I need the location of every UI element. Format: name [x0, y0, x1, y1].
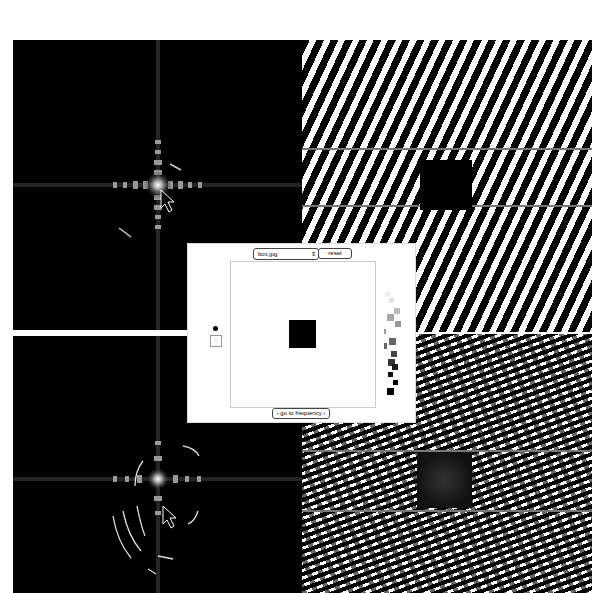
palette-swatch[interactable]: [395, 321, 401, 327]
palette-swatch[interactable]: [385, 292, 390, 297]
brush-dot-icon[interactable]: [213, 326, 218, 331]
palette-swatch[interactable]: [387, 314, 394, 321]
palette-swatch[interactable]: [392, 364, 398, 370]
palette-swatch[interactable]: [387, 388, 394, 395]
box-image: [420, 160, 472, 210]
palette-swatch[interactable]: [391, 351, 397, 357]
lasso-select-icon[interactable]: ◌: [210, 335, 222, 347]
canvas-black-box: [289, 320, 316, 348]
scanline: [302, 510, 592, 512]
image-select-value: box.jpg: [258, 251, 277, 257]
select-arrows-icon: ⇕: [311, 249, 316, 259]
palette-swatch[interactable]: [389, 338, 396, 345]
palette-swatch[interactable]: [384, 329, 386, 334]
image-editor-dialog: box.jpg ⇕ reset ◌ › go to frequency ›: [188, 244, 415, 422]
scanline: [302, 148, 592, 150]
cursor-arrow-icon: [163, 506, 176, 528]
palette-swatch[interactable]: [393, 380, 398, 385]
reset-button[interactable]: reset: [318, 248, 352, 259]
blurred-box-image: [417, 452, 472, 508]
palette-swatch[interactable]: [384, 343, 387, 349]
image-select[interactable]: box.jpg ⇕: [253, 248, 319, 260]
go-to-frequency-button[interactable]: › go to frequency ›: [272, 408, 330, 419]
palette-swatch[interactable]: [394, 308, 400, 314]
drawing-canvas[interactable]: [230, 261, 376, 408]
palette-swatch[interactable]: [389, 298, 394, 303]
palette-swatch[interactable]: [388, 372, 393, 377]
